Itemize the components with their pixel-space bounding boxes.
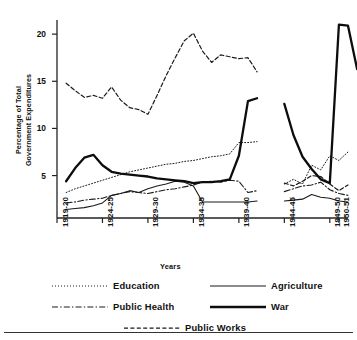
- legend-item-education[interactable]: Education: [52, 280, 160, 291]
- series-line-education: [284, 152, 348, 184]
- legend-label-agriculture: Agriculture: [271, 280, 323, 291]
- x-tick-label: 1939-40: [242, 197, 251, 227]
- figure-chart-government-expenditures: Percentage of Total Government Expenditu…: [0, 0, 357, 340]
- y-tick-label: 15: [24, 76, 46, 86]
- x-tick-label: 1929-30: [151, 197, 160, 227]
- series-line-public-health: [284, 182, 348, 195]
- public-works-line-swatch-icon: [124, 324, 180, 332]
- data-series-group: [66, 25, 357, 210]
- series-line-public-works: [66, 33, 257, 114]
- series-line-agriculture: [66, 181, 257, 209]
- y-tick-label: 10: [24, 123, 46, 133]
- legend-label-war: War: [271, 301, 289, 312]
- x-tick-label: 1934-35: [197, 197, 206, 227]
- x-tick-label: 1949-50: [333, 197, 342, 227]
- y-axis-title-line1: Percentage of Total: [14, 60, 24, 180]
- x-tick-label: 1950-51: [342, 197, 351, 227]
- legend-item-war[interactable]: War: [210, 301, 289, 312]
- legend-label-education: Education: [113, 280, 160, 291]
- y-axis-ticks: [52, 34, 57, 175]
- x-tick-label: 1944-45: [288, 197, 297, 227]
- legend-item-public-health[interactable]: Public Health: [52, 301, 174, 312]
- footer-rule: [4, 332, 353, 333]
- x-axis-title: Years: [160, 262, 181, 271]
- legend-label-public-health: Public Health: [113, 301, 174, 312]
- y-tick-label: 20: [24, 29, 46, 39]
- y-tick-label: 5: [24, 171, 46, 181]
- x-tick-label: 1919-20: [61, 197, 70, 227]
- series-line-war: [66, 98, 257, 183]
- public-health-line-swatch-icon: [52, 303, 108, 311]
- axis-lines: [57, 20, 348, 218]
- education-line-swatch-icon: [52, 282, 108, 290]
- agriculture-line-swatch-icon: [210, 282, 266, 290]
- x-tick-label: 1924-25: [106, 197, 115, 227]
- legend-item-agriculture[interactable]: Agriculture: [210, 280, 323, 291]
- series-line-public-health: [66, 180, 257, 203]
- war-line-swatch-icon: [210, 303, 266, 311]
- series-line-war: [284, 25, 357, 183]
- chart-legend: Education Public Health Agriculture War: [0, 277, 357, 329]
